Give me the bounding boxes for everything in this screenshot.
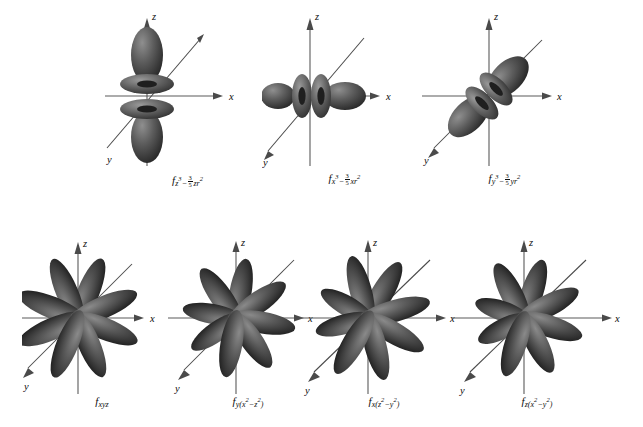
axis-label-z-fy-x2-z2: z (240, 238, 245, 248)
orbital-label-minus: − (339, 177, 344, 186)
axis-label-y-fy-x2-z2: y (174, 383, 180, 394)
axis-label-x-fz3: x (228, 91, 234, 102)
orbital-fz-x2-y2: x y z fz(x2−y2) (452, 238, 622, 396)
orbital-fx3-diagram: x y z (262, 8, 427, 168)
axis-label-x-fx3: x (385, 91, 391, 102)
orbital-fy3: x y z fy3−35yr2 (422, 8, 587, 168)
orbital-fxyz-diagram: x y z (22, 238, 182, 396)
axis-label-x-fy3: x (556, 91, 562, 102)
orbital-label-sup-after: 2 (357, 173, 360, 180)
orbital-label-sub: xyz (98, 400, 108, 409)
axis-label-z-fz3: z (151, 11, 156, 22)
lobe-x-negative (262, 83, 295, 109)
axis-label-x-fz-x2-y2: x (614, 313, 620, 324)
orbital-label-fx-z2-y2: fx(z2−y2) (300, 395, 468, 409)
orbital-label-fz3: fz3−35zr2 (105, 174, 270, 189)
orbital-label-fz-x2-y2: fz(x2−y2) (452, 395, 622, 409)
orbital-label-minus: − (499, 177, 504, 186)
lobes-y-axis (436, 44, 541, 149)
axis-label-z-fz-x2-y2: z (528, 238, 533, 248)
orbital-fz-x2-y2-diagram: x y z (452, 238, 622, 396)
axis-label-x-fxyz: x (149, 313, 155, 324)
axis-label-y-fy3: y (423, 155, 429, 166)
axis-label-y-fxyz: y (23, 381, 29, 392)
orbital-label-sup-after: 2 (517, 173, 520, 180)
axis-label-y-fz3: y (106, 154, 112, 165)
orbital-fy3-diagram: x y z (422, 8, 587, 168)
axes-fz3 (105, 18, 223, 166)
orbital-fx-z2-y2-diagram: x y z (300, 238, 468, 396)
orbital-label-sup-after: 2 (200, 175, 203, 182)
orbital-label-sub-tail: ) (550, 400, 553, 409)
orbital-label-fxyz: fxyz (22, 395, 182, 409)
orbital-fx-z2-y2: x y z fx(z2−y2) (300, 238, 468, 396)
axis-label-z-fy3: z (493, 11, 498, 22)
orbital-fx3: x y z fx3−35xr2 (262, 8, 427, 168)
axis-label-y-fx3: y (262, 157, 268, 168)
orbital-label-sub-tail: ) (261, 400, 264, 409)
axis-label-z-fx-z2-y2: z (372, 238, 377, 248)
orbital-label-sub-tail: ) (397, 400, 400, 409)
orbital-label-fy3: fy3−35yr2 (422, 172, 587, 187)
orbital-fxyz: x y z fxyz (22, 238, 182, 396)
lobes-fy-x2-z2 (181, 257, 297, 379)
orbital-label-fx3: fx3−35xr2 (262, 172, 427, 187)
orbital-label-minus: − (182, 179, 187, 188)
orbital-fz3: x y z fz3−35zr2 (105, 8, 270, 168)
orbital-fz3-diagram: x y z (105, 8, 270, 168)
axis-label-z-fxyz: z (82, 238, 87, 249)
f-orbital-figure: x y z fz3−35zr2 x y (0, 0, 643, 427)
axis-label-z-fx3: z (314, 11, 319, 22)
